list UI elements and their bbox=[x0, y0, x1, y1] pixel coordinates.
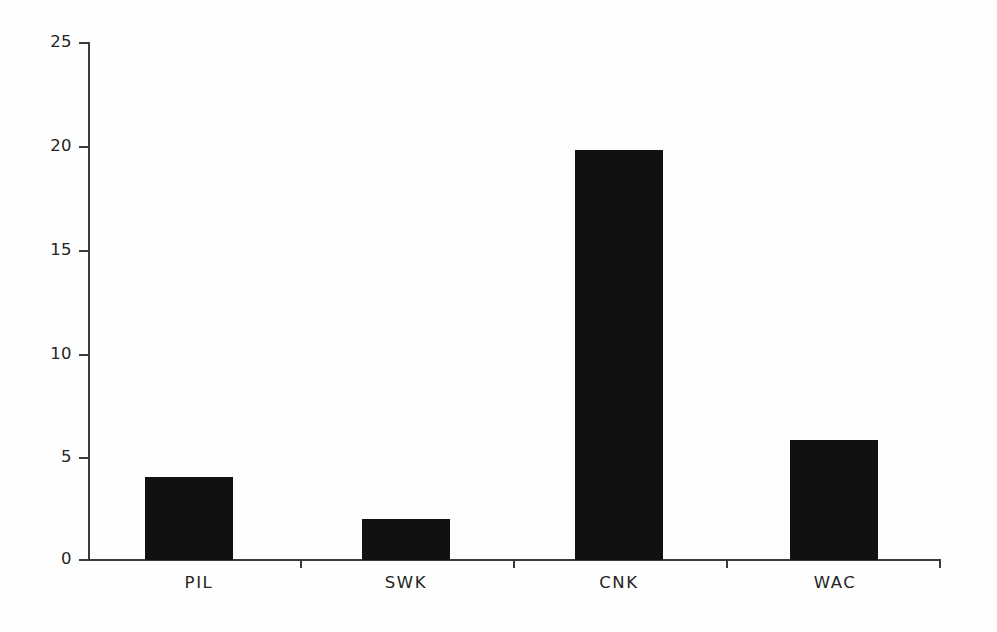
y-tick-0 bbox=[79, 559, 89, 561]
y-tick-label-20: 20 bbox=[28, 138, 72, 155]
y-axis-tick-labels: 25 20 15 10 5 0 bbox=[0, 0, 72, 632]
y-tick-5 bbox=[79, 457, 89, 459]
x-tick-label-pil: PIL bbox=[119, 574, 279, 592]
bar-slot-wac bbox=[790, 42, 878, 560]
bar-slot-cnk bbox=[575, 42, 663, 560]
y-tick-label-25: 25 bbox=[28, 34, 72, 51]
bar-slot-swk bbox=[362, 42, 450, 560]
y-tick-label-5: 5 bbox=[28, 449, 72, 466]
bar-swk bbox=[362, 519, 450, 560]
y-tick-label-15: 15 bbox=[28, 242, 72, 259]
bar-chart: 25 20 15 10 5 0 PIL SWK CNK WAC bbox=[0, 0, 997, 632]
x-axis-tick-2 bbox=[513, 559, 515, 568]
x-tick-label-swk: SWK bbox=[326, 574, 486, 592]
y-tick-15 bbox=[79, 250, 89, 252]
x-axis-tick-3 bbox=[726, 559, 728, 568]
plot-area bbox=[90, 42, 941, 560]
x-tick-label-wac: WAC bbox=[755, 574, 915, 592]
x-axis-tick-1 bbox=[300, 559, 302, 568]
y-tick-label-0: 0 bbox=[28, 551, 72, 568]
bar-pil bbox=[145, 477, 233, 560]
y-tick-label-10: 10 bbox=[28, 346, 72, 363]
x-axis-end-tick bbox=[939, 559, 941, 568]
bar-slot-pil bbox=[145, 42, 233, 560]
bar-wac bbox=[790, 440, 878, 560]
y-tick-10 bbox=[79, 354, 89, 356]
y-tick-20 bbox=[79, 146, 89, 148]
x-tick-label-cnk: CNK bbox=[539, 574, 699, 592]
y-tick-25 bbox=[79, 42, 89, 44]
bar-cnk bbox=[575, 150, 663, 560]
